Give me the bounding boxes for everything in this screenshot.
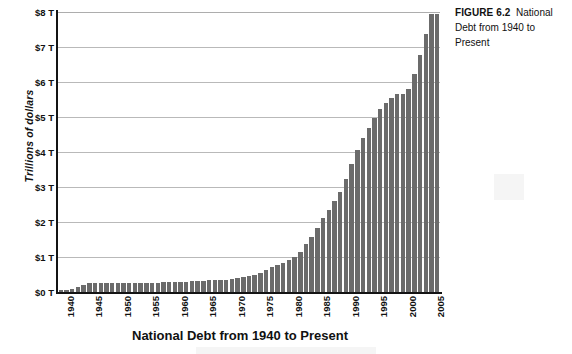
bar (384, 103, 388, 292)
figure-caption-label: FIGURE 6.2 (455, 7, 510, 18)
bar (344, 179, 348, 292)
bar (327, 210, 331, 292)
bar (213, 280, 217, 292)
bar (201, 281, 205, 292)
bar (144, 283, 148, 292)
x-axis-tick-label: 1975 (264, 296, 275, 317)
bar (173, 282, 177, 292)
bar (195, 281, 199, 292)
x-axis-tick-label: 1945 (93, 296, 104, 317)
y-axis-tick-label: $6 T (22, 77, 54, 88)
bar (116, 283, 120, 292)
y-axis-tick-label: $4 T (22, 147, 54, 158)
x-axis-tick-label: 1995 (378, 296, 389, 317)
bar (315, 228, 319, 292)
bar (435, 14, 439, 292)
bar (418, 55, 422, 292)
x-axis-tick-label: 1950 (122, 296, 133, 317)
bar (389, 98, 393, 292)
x-axis-tick-label: 1960 (179, 296, 190, 317)
bar (207, 280, 211, 292)
bar (99, 283, 103, 292)
bar (304, 244, 308, 292)
bar (247, 276, 251, 292)
bar (378, 109, 382, 292)
y-axis-tick-label: $2 T (22, 217, 54, 228)
bar (338, 192, 342, 292)
bar (133, 283, 137, 292)
bar (150, 283, 154, 292)
x-axis-tick-label: 1985 (321, 296, 332, 317)
bar (412, 74, 416, 292)
bar (395, 94, 399, 292)
bar (298, 252, 302, 292)
bar (355, 150, 359, 292)
bar (281, 263, 285, 292)
bar (429, 14, 433, 292)
bar (270, 267, 274, 292)
x-axis-tick-label: 1955 (150, 296, 161, 317)
bar (93, 283, 97, 292)
bar (81, 285, 85, 292)
bar (258, 273, 262, 292)
chart-title: National Debt from 1940 to Present (40, 328, 440, 343)
bar (275, 265, 279, 292)
bar (406, 89, 410, 292)
scan-artifact (494, 174, 524, 200)
bar (309, 237, 313, 292)
figure-caption: FIGURE 6.2 National Debt from 1940 to Pr… (455, 5, 570, 50)
x-axis-tick-labels: 1940194519501955196019651970197519801985… (58, 296, 440, 328)
bar (321, 218, 325, 292)
y-axis-line (56, 10, 58, 294)
y-axis-tick-labels: $0 T$1 T$2 T$3 T$4 T$5 T$6 T$7 T$8 T (22, 0, 54, 354)
bar (224, 280, 228, 292)
bar (178, 282, 182, 292)
bar (332, 201, 336, 292)
bar (287, 260, 291, 292)
bar (401, 94, 405, 292)
y-axis-tick-label: $1 T (22, 252, 54, 263)
x-axis-tick-label: 1965 (207, 296, 218, 317)
x-axis-tick-label: 2000 (407, 296, 418, 317)
bar (184, 282, 188, 293)
bar-chart: Trillions of dollars $0 T$1 T$2 T$3 T$4 … (0, 0, 450, 354)
bar (264, 270, 268, 292)
x-axis-tick-label: 1990 (350, 296, 361, 317)
figure-container: Trillions of dollars $0 T$1 T$2 T$3 T$4 … (0, 0, 572, 354)
bar (235, 278, 239, 292)
plot-area (58, 12, 440, 292)
bar (367, 128, 371, 292)
x-axis-line (56, 292, 442, 294)
bar (138, 283, 142, 292)
y-axis-tick-label: $5 T (22, 112, 54, 123)
bar (349, 164, 353, 292)
bar (104, 283, 108, 292)
bar (361, 138, 365, 292)
y-axis-tick-label: $3 T (22, 182, 54, 193)
bar (110, 283, 114, 292)
y-axis-tick-label: $7 T (22, 42, 54, 53)
bar (161, 282, 165, 292)
bar (252, 275, 256, 292)
bar (424, 34, 428, 292)
bars-layer (58, 12, 440, 292)
bar (127, 283, 131, 292)
x-axis-tick-label: 1940 (65, 296, 76, 317)
bar (372, 118, 376, 292)
bar (218, 280, 222, 292)
y-axis-tick-label: $0 T (22, 287, 54, 298)
x-axis-tick-label: 2005 (435, 296, 446, 317)
bar (190, 281, 194, 292)
x-axis-tick-label: 1970 (236, 296, 247, 317)
bar (167, 282, 171, 292)
bar (292, 257, 296, 292)
x-axis-tick-label: 1980 (293, 296, 304, 317)
bar (87, 283, 91, 292)
bar (121, 283, 125, 292)
y-axis-tick-label: $8 T (22, 7, 54, 18)
bar (156, 283, 160, 292)
bar (230, 279, 234, 292)
bar (241, 277, 245, 292)
